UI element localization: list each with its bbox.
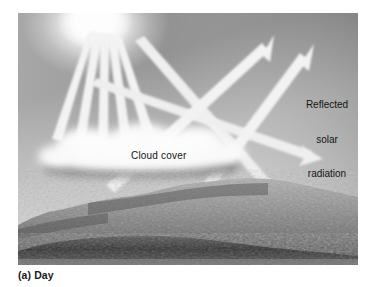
figure-root: Cloud cover Reflected solar radiation (a… (0, 0, 382, 287)
reflected-label-line-1: Reflected (290, 99, 358, 111)
cloud-cover-label: Cloud cover (131, 150, 187, 161)
reflected-label-line-2: solar (290, 134, 358, 146)
daytime-cloud-albedo-illustration: Cloud cover Reflected solar radiation (18, 13, 358, 265)
reflected-label-line-3: radiation (290, 168, 358, 180)
reflected-solar-radiation-label: Reflected solar radiation (290, 76, 358, 203)
figure-caption: (a) Day (18, 269, 54, 281)
